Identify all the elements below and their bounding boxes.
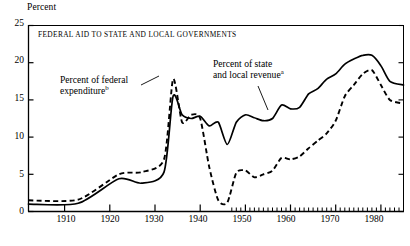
chart-figure: Percent 25 20 15 10 5 0 1910 1920 1930 1… bbox=[0, 0, 410, 246]
series-line-federal-expenditure bbox=[29, 70, 404, 205]
leader-line-federal bbox=[141, 76, 159, 85]
series-line-state-local-revenue bbox=[29, 55, 404, 205]
x-ticks-group bbox=[65, 205, 404, 212]
y-ticks-group bbox=[29, 26, 404, 212]
plot-area bbox=[0, 0, 410, 246]
leader-line-state bbox=[258, 86, 268, 110]
annotation-leader-lines bbox=[141, 76, 268, 110]
axes-group bbox=[28, 25, 404, 212]
